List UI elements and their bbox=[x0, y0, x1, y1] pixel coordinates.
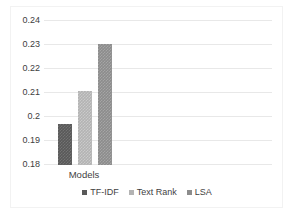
legend-swatch-icon bbox=[187, 190, 192, 195]
y-tick-label: 0.2 bbox=[27, 112, 40, 121]
legend: TF-IDF Text Rank LSA bbox=[0, 187, 294, 197]
legend-swatch-icon bbox=[82, 190, 87, 195]
bar-chart: 0.24 0.23 0.22 0.21 0.2 0.19 0.18 Models… bbox=[0, 0, 294, 218]
y-tick-label: 0.18 bbox=[22, 160, 40, 169]
bar-tf-idf[interactable] bbox=[58, 124, 72, 165]
y-tick-label: 0.19 bbox=[22, 136, 40, 145]
y-axis: 0.24 0.23 0.22 0.21 0.2 0.19 0.18 bbox=[0, 0, 40, 218]
y-tick-label: 0.22 bbox=[22, 64, 40, 73]
legend-label: Text Rank bbox=[137, 187, 177, 197]
legend-item-lsa[interactable]: LSA bbox=[187, 187, 212, 197]
plot-area bbox=[44, 20, 272, 165]
legend-item-text-rank[interactable]: Text Rank bbox=[129, 187, 177, 197]
bars-layer bbox=[44, 20, 272, 165]
y-tick-label: 0.21 bbox=[22, 88, 40, 97]
bar-lsa[interactable] bbox=[98, 44, 112, 165]
legend-swatch-icon bbox=[129, 190, 134, 195]
x-axis-category-label: Models bbox=[44, 169, 124, 180]
bar-text-rank[interactable] bbox=[78, 91, 92, 165]
legend-label: LSA bbox=[195, 187, 212, 197]
y-tick-label: 0.23 bbox=[22, 40, 40, 49]
legend-label: TF-IDF bbox=[90, 187, 119, 197]
legend-item-tf-idf[interactable]: TF-IDF bbox=[82, 187, 119, 197]
y-tick-label: 0.24 bbox=[22, 16, 40, 25]
